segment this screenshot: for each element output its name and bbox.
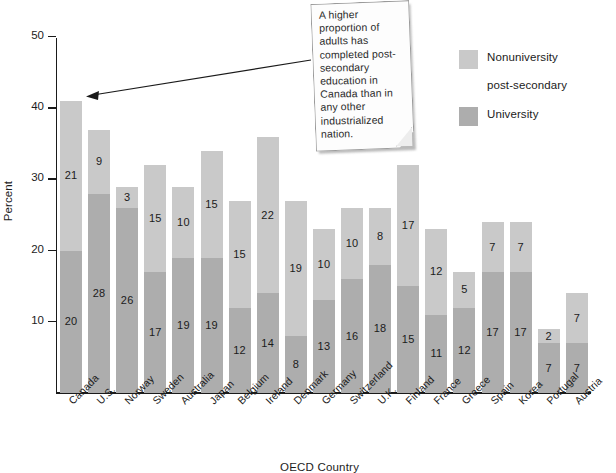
bar-segment-nonuniversity[interactable]: 22 xyxy=(257,137,279,294)
bar-group[interactable]: 289 xyxy=(88,130,110,393)
legend-label-nonuniversity-line2: post-secondary xyxy=(487,79,567,91)
y-axis-tick-label: 50 xyxy=(4,29,44,41)
bar-segment-nonuniversity[interactable]: 7 xyxy=(510,222,532,272)
bar-segment-nonuniversity[interactable]: 17 xyxy=(397,165,419,286)
bar-value-university: 13 xyxy=(318,341,331,352)
bar-group[interactable]: 1610 xyxy=(341,208,363,393)
bar-segment-nonuniversity[interactable]: 7 xyxy=(482,222,504,272)
y-axis-tick xyxy=(48,178,56,179)
bar-segment-nonuniversity[interactable]: 2 xyxy=(538,329,560,343)
bar-segment-nonuniversity[interactable]: 15 xyxy=(201,151,223,258)
bar-segment-nonuniversity[interactable]: 10 xyxy=(313,229,335,300)
bar-value-nonuniversity: 5 xyxy=(461,284,467,295)
y-axis-tick xyxy=(48,321,56,322)
bar-segment-nonuniversity[interactable]: 15 xyxy=(229,201,251,308)
bar-group[interactable]: 1910 xyxy=(172,187,194,393)
bar-value-nonuniversity: 2 xyxy=(546,331,552,342)
bar-group[interactable]: 177 xyxy=(510,222,532,393)
bar-segment-nonuniversity[interactable]: 12 xyxy=(425,229,447,314)
legend-label-university: University xyxy=(487,108,538,120)
bar-value-nonuniversity: 19 xyxy=(289,263,302,274)
bar-value-university: 7 xyxy=(546,363,552,374)
bar-value-nonuniversity: 7 xyxy=(574,313,580,324)
bar-group[interactable]: 1215 xyxy=(229,201,251,393)
bar-segment-university[interactable]: 20 xyxy=(60,251,82,393)
bar-value-university: 17 xyxy=(514,327,527,338)
bar-group[interactable]: 1915 xyxy=(201,151,223,393)
bar-segment-nonuniversity[interactable]: 8 xyxy=(369,208,391,265)
bar-value-nonuniversity: 7 xyxy=(517,242,523,253)
bar-segment-nonuniversity[interactable]: 10 xyxy=(341,208,363,279)
bar-value-nonuniversity: 10 xyxy=(346,238,359,249)
y-axis-labels xyxy=(0,0,44,473)
legend-swatch-nonuniversity xyxy=(459,50,478,69)
bar-value-nonuniversity: 9 xyxy=(96,156,102,167)
bar-value-nonuniversity: 7 xyxy=(489,242,495,253)
bar-value-nonuniversity: 15 xyxy=(149,213,162,224)
bar-segment-nonuniversity[interactable]: 7 xyxy=(566,293,588,343)
bar-group[interactable]: 1310 xyxy=(313,229,335,393)
bar-segment-nonuniversity[interactable]: 15 xyxy=(144,165,166,272)
bar-value-nonuniversity: 10 xyxy=(177,217,190,228)
legend-item-university: University xyxy=(459,105,609,134)
bar-value-university: 19 xyxy=(177,320,190,331)
bar-value-university: 17 xyxy=(486,327,499,338)
bar-value-nonuniversity: 10 xyxy=(318,259,331,270)
annotation-callout: A higher proportion of adults has comple… xyxy=(310,0,413,150)
bar-value-university: 11 xyxy=(430,348,442,359)
bar-value-university: 16 xyxy=(346,331,359,342)
bar-value-university: 28 xyxy=(93,288,106,299)
bar-value-nonuniversity: 15 xyxy=(233,249,246,260)
bar-segment-nonuniversity[interactable]: 3 xyxy=(116,187,138,208)
y-axis-tick-label: 20 xyxy=(4,243,44,255)
bar-value-nonuniversity: 22 xyxy=(261,210,274,221)
bar-group[interactable]: 177 xyxy=(482,222,504,393)
bar-value-nonuniversity: 12 xyxy=(430,266,443,277)
bar-segment-nonuniversity[interactable]: 5 xyxy=(453,272,475,308)
bar-segment-university[interactable]: 26 xyxy=(116,208,138,393)
bar-value-nonuniversity: 21 xyxy=(65,170,78,181)
x-axis-title: OECD Country xyxy=(280,461,359,473)
bar-value-university: 17 xyxy=(149,327,162,338)
bar-value-university: 18 xyxy=(374,323,387,334)
bar-segment-university[interactable]: 17 xyxy=(510,272,532,393)
legend-swatch-university xyxy=(459,107,478,126)
annotation-text: A higher proportion of adults has comple… xyxy=(319,7,405,140)
bar-segment-university[interactable]: 28 xyxy=(88,194,110,393)
bar-group[interactable]: 1422 xyxy=(257,137,279,393)
y-axis-tick xyxy=(48,36,56,37)
bar-value-university: 14 xyxy=(261,338,274,349)
bar-value-university: 12 xyxy=(233,345,246,356)
bar-group[interactable]: 2021 xyxy=(60,101,82,393)
chart-screenshot: Percent OECD Country 2021289263171519101… xyxy=(0,0,616,473)
y-axis-tick xyxy=(48,107,56,108)
bar-value-university: 26 xyxy=(121,295,134,306)
bar-segment-nonuniversity[interactable]: 9 xyxy=(88,130,110,194)
bar-group[interactable]: 1715 xyxy=(144,165,166,393)
bar-segment-nonuniversity[interactable]: 10 xyxy=(172,187,194,258)
bar-segment-nonuniversity[interactable]: 21 xyxy=(60,101,82,251)
chart-legend: Nonuniversity post-secondary University xyxy=(459,48,609,134)
bar-group[interactable]: 125 xyxy=(453,272,475,393)
bar-group[interactable]: 1112 xyxy=(425,229,447,393)
bar-value-nonuniversity: 17 xyxy=(402,220,415,231)
bar-value-nonuniversity: 3 xyxy=(124,192,130,203)
y-axis-tick-label: 40 xyxy=(4,100,44,112)
bar-value-nonuniversity: 8 xyxy=(377,231,383,242)
bar-value-university: 15 xyxy=(402,334,415,345)
bar-segment-university[interactable]: 15 xyxy=(397,286,419,393)
bar-group[interactable]: 1517 xyxy=(397,165,419,393)
bar-value-nonuniversity: 15 xyxy=(205,199,218,210)
bar-group[interactable]: 263 xyxy=(116,187,138,393)
legend-label-nonuniversity-line1: Nonuniversity xyxy=(487,51,558,63)
bar-group[interactable]: 819 xyxy=(285,201,307,393)
bar-segment-university[interactable]: 12 xyxy=(229,308,251,393)
bar-value-university: 19 xyxy=(205,320,218,331)
bar-segment-nonuniversity[interactable]: 19 xyxy=(285,201,307,336)
y-axis-tick-label: 30 xyxy=(4,171,44,183)
bar-value-university: 12 xyxy=(458,345,471,356)
y-axis-tick-label: 10 xyxy=(4,314,44,326)
y-axis-tick xyxy=(48,250,56,251)
legend-item-nonuniversity: Nonuniversity post-secondary xyxy=(459,48,609,77)
bar-value-university: 8 xyxy=(293,359,299,370)
